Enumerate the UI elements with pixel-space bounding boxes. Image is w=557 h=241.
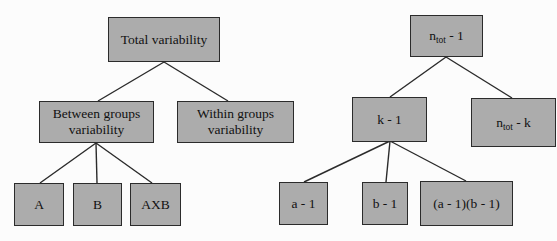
node-a: A (14, 183, 64, 226)
connector-line (304, 141, 390, 182)
connector-line (40, 143, 96, 183)
node-ntot-minus-k: ntot - k (471, 98, 556, 147)
diagram-canvas: Total variability Between groups variabi… (0, 0, 557, 241)
node-label: B (93, 197, 102, 213)
node-total-variability: Total variability (108, 17, 220, 62)
node-ntot-minus-1: ntot - 1 (410, 15, 483, 57)
node-label: Between groups variability (42, 106, 151, 138)
connector-line (96, 143, 152, 183)
node-within-groups-variability: Within groups variability (177, 101, 294, 143)
node-label: (a - 1)(b - 1) (433, 196, 500, 212)
node-b: B (73, 183, 122, 226)
connector-line (446, 57, 512, 98)
node-label: ntot - 1 (429, 28, 464, 44)
connector-line (96, 143, 97, 183)
connector-line (386, 141, 390, 182)
node-label: k - 1 (377, 112, 402, 128)
node-b-minus-1: b - 1 (362, 182, 408, 225)
node-label: Within groups variability (180, 106, 291, 138)
node-k-minus-1: k - 1 (352, 97, 427, 142)
connector-line (390, 141, 466, 181)
node-a-minus-1-times-b-minus-1: (a - 1)(b - 1) (420, 181, 513, 226)
node-label: ntot - k (496, 115, 531, 131)
node-label: AXB (141, 197, 170, 213)
connector-line (164, 62, 228, 101)
node-label: A (34, 197, 44, 213)
connector-line (390, 57, 446, 97)
node-label: a - 1 (292, 196, 316, 212)
node-label: Total variability (121, 32, 207, 48)
node-axb: AXB (130, 183, 181, 226)
node-label: b - 1 (373, 196, 398, 212)
node-a-minus-1: a - 1 (279, 182, 328, 225)
connector-line (98, 62, 164, 101)
node-between-groups-variability: Between groups variability (39, 101, 154, 143)
